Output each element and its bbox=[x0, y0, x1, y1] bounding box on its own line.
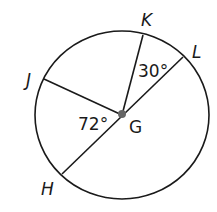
label-j: J bbox=[23, 70, 31, 90]
angle-label-kgl: 30° bbox=[138, 61, 168, 81]
label-k: K bbox=[141, 10, 154, 30]
circle-diagram: K L J H G 30° 72° bbox=[0, 0, 217, 212]
angle-label-jgh: 72° bbox=[78, 114, 108, 134]
radius-gj bbox=[44, 79, 122, 115]
center-point-g bbox=[118, 110, 126, 118]
diagram-canvas: K L J H G 30° 72° bbox=[0, 0, 217, 212]
label-l: L bbox=[192, 42, 201, 62]
label-h: H bbox=[41, 179, 54, 199]
label-g: G bbox=[129, 117, 142, 137]
